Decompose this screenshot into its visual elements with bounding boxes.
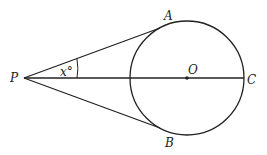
tangent-line-pb [24, 78, 160, 128]
geometry-diagram: P A B O C x° [0, 0, 267, 155]
angle-arc [77, 59, 78, 78]
label-o: O [188, 63, 198, 77]
label-a: A [163, 9, 173, 23]
tangent-line-pa [24, 28, 160, 78]
label-c: C [247, 73, 256, 87]
label-b: B [164, 136, 174, 150]
label-p: P [9, 71, 19, 85]
angle-label: x° [60, 65, 73, 79]
